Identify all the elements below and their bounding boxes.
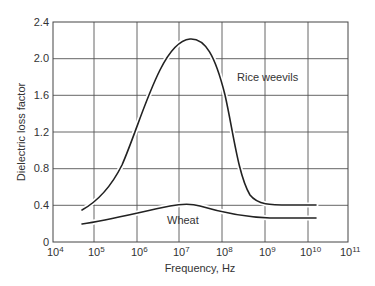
y-axis-title: Dielectric loss factor <box>15 82 27 181</box>
svg-text:104: 104 <box>47 245 64 258</box>
svg-text:0.8: 0.8 <box>34 162 49 174</box>
svg-text:1.6: 1.6 <box>34 89 49 101</box>
x-axis-ticks: 104 105 106 107 108 109 1010 1011 <box>47 245 361 258</box>
svg-text:1011: 1011 <box>340 245 361 258</box>
svg-text:106: 106 <box>131 245 148 258</box>
rice-weevils-label: Rice weevils <box>237 71 299 83</box>
svg-text:1010: 1010 <box>300 245 322 258</box>
wheat-label: Wheat <box>167 214 199 226</box>
svg-text:107: 107 <box>173 245 190 258</box>
svg-text:1.2: 1.2 <box>34 126 49 138</box>
svg-text:109: 109 <box>259 245 276 258</box>
y-axis-ticks: 0 0.4 0.8 1.2 1.6 2.0 2.4 <box>34 16 49 248</box>
svg-text:108: 108 <box>216 245 233 258</box>
svg-text:2.4: 2.4 <box>34 16 49 28</box>
svg-text:0.4: 0.4 <box>34 199 49 211</box>
svg-text:105: 105 <box>88 245 105 258</box>
series-lines <box>82 39 316 224</box>
grid <box>53 22 348 242</box>
rice-weevils-line <box>82 39 316 210</box>
svg-text:2.0: 2.0 <box>34 52 49 64</box>
x-axis-title: Frequency, Hz <box>165 262 236 274</box>
chart: Rice weevils Wheat 0 0.4 0.8 1.2 1.6 2.0… <box>0 0 375 286</box>
